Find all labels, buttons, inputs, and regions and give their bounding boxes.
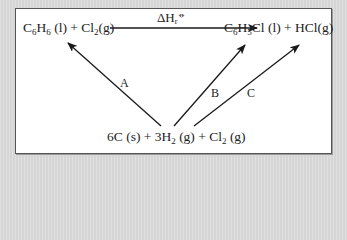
arrow-c-label: C <box>247 87 255 99</box>
reactants-formula: C6H6 (l) + Cl2(g) <box>23 21 114 35</box>
arrow-a <box>68 43 161 126</box>
enthalpy-change-label: ΔHr⦵ <box>157 11 186 24</box>
elements-formula: 6C (s) + 3H2 (g) + Cl2 (g) <box>107 130 246 144</box>
arrow-a-label: A <box>120 77 129 89</box>
arrow-b-label: B <box>211 87 219 99</box>
products-formula: C6H5Cl (l) + HCl(g) <box>224 21 333 35</box>
